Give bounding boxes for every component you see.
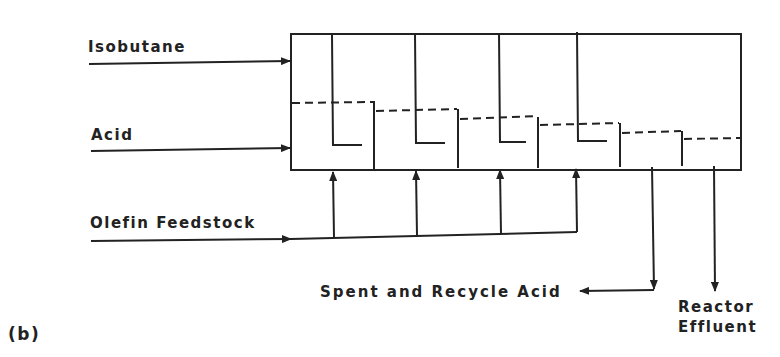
isobutane-inlet-arrow (89, 61, 290, 64)
baffle-3 (499, 33, 526, 142)
olefin-feedstock-label: Olefin Feedstock (90, 216, 256, 231)
liquid-level-5 (622, 131, 681, 133)
liquid-level-3 (460, 116, 537, 119)
spent-acid-label: Spent and Recycle Acid (320, 285, 562, 300)
olefin-riser-4 (576, 169, 577, 232)
acid-label: Acid (91, 128, 133, 143)
acid-inlet-arrow (91, 148, 290, 151)
spent-acid-arrow (580, 290, 654, 291)
spent-acid-drop (652, 167, 654, 289)
olefin-riser-3 (500, 170, 501, 234)
olefin-riser-1 (333, 172, 334, 238)
figure-label: (b) (8, 326, 40, 343)
baffle-1 (332, 35, 362, 145)
liquid-level-2 (376, 109, 457, 111)
reactor-effluent-label-1: Reactor (678, 300, 754, 315)
effluent-arrow (714, 166, 715, 291)
olefin-inlet-arrow (91, 239, 291, 241)
baffle-2 (415, 34, 445, 143)
isobutane-label: Isobutane (88, 40, 186, 55)
olefin-riser-2 (416, 171, 417, 236)
liquid-level-1 (292, 102, 373, 103)
liquid-level-6 (684, 138, 740, 139)
reactor-effluent-label-2: Effluent (678, 320, 757, 335)
liquid-level-4 (540, 123, 619, 125)
